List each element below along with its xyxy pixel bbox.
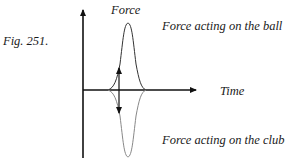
x-axis-label: Time xyxy=(220,84,244,99)
y-axis-label: Force xyxy=(111,3,140,18)
club-force-curve xyxy=(108,90,146,157)
ball-force-curve xyxy=(108,23,146,90)
upper-curve-label: Force acting on the ball xyxy=(162,19,282,34)
figure-caption: Fig. 251. xyxy=(3,34,48,49)
lower-curve-label: Force acting on the club xyxy=(162,133,284,148)
